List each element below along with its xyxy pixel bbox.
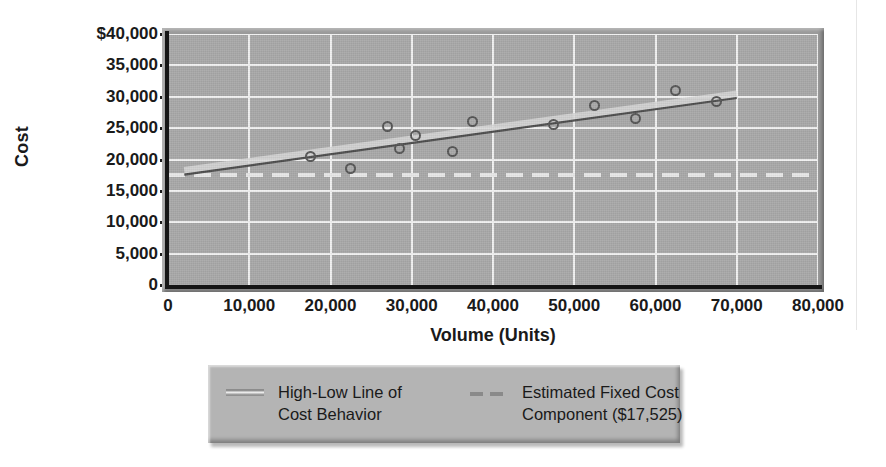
y-axis-ticklabel: 15,000 xyxy=(50,181,158,201)
data-point-marker xyxy=(447,146,458,157)
y-axis-ticklabel: 20,000 xyxy=(50,150,158,170)
data-point-marker xyxy=(394,143,405,154)
y-axis-ticklabels: 05,00010,00015,00020,00025,00030,00035,0… xyxy=(50,24,158,296)
legend-item-fixed-cost: Estimated Fixed Cost Component ($17,525) xyxy=(470,381,683,425)
y-axis-title: Cost xyxy=(12,107,33,187)
y-axis-ticklabel: 10,000 xyxy=(50,212,158,232)
canvas-edge-rule xyxy=(856,0,857,330)
x-axis-spine xyxy=(165,285,822,289)
x-axis-title: Volume (Units) xyxy=(168,325,818,346)
y-axis-ticklabel: 30,000 xyxy=(50,87,158,107)
y-axis-ticklabel: 25,000 xyxy=(50,118,158,138)
high-low-trend-line xyxy=(184,94,737,175)
series-lines xyxy=(168,34,818,285)
legend-label-fixed-cost-line2: Component ($17,525) xyxy=(522,403,683,425)
data-point-marker xyxy=(711,96,722,107)
y-axis-spine xyxy=(165,31,169,288)
legend-item-high-low: High-Low Line of Cost Behavior xyxy=(226,381,402,425)
legend-label-high-low-line1: High-Low Line of xyxy=(278,381,402,403)
legend-swatch-solid-line-icon xyxy=(226,381,270,403)
plot-area xyxy=(168,34,818,285)
legend-label-high-low: High-Low Line of Cost Behavior xyxy=(278,381,402,425)
x-axis-ticklabel: 80,000 xyxy=(758,296,878,316)
y-axis-ticklabel: $40,000 xyxy=(50,24,158,44)
y-axis-ticklabel: 0 xyxy=(50,275,158,295)
legend-label-fixed-cost-line1: Estimated Fixed Cost xyxy=(522,381,683,403)
y-axis-ticklabel: 35,000 xyxy=(50,55,158,75)
data-point-marker xyxy=(630,113,641,124)
chart-legend: High-Low Line of Cost Behavior Estimated… xyxy=(208,365,680,443)
y-axis-ticklabel: 5,000 xyxy=(50,244,158,264)
legend-swatch-dashed-line-icon xyxy=(470,381,514,403)
legend-label-fixed-cost: Estimated Fixed Cost Component ($17,525) xyxy=(522,381,683,425)
cost-behavior-chart-figure: Cost 05,00010,00015,00020,00025,00030,00… xyxy=(0,0,886,467)
legend-label-high-low-line2: Cost Behavior xyxy=(278,403,402,425)
